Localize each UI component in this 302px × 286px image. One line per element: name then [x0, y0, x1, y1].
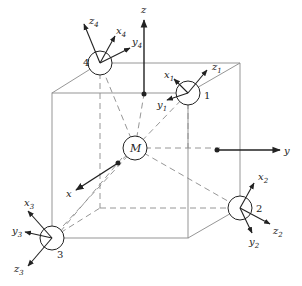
- svg-text:y3: y3: [11, 225, 23, 239]
- center-label: M: [129, 142, 142, 155]
- node-3: 3 x3 y3 z3: [11, 197, 64, 277]
- node-3-label: 3: [57, 249, 63, 260]
- svg-text:x3: x3: [24, 197, 35, 211]
- node-1-label: 1: [204, 90, 210, 101]
- y-axis-label: y: [283, 145, 290, 156]
- node-2: 2 x2 z2 y2: [228, 171, 283, 250]
- svg-text:z3: z3: [13, 263, 24, 277]
- svg-text:x2: x2: [258, 171, 269, 185]
- z-axis-label: z: [140, 4, 147, 15]
- global-y-axis: y: [215, 145, 291, 156]
- svg-text:x1: x1: [164, 69, 174, 83]
- svg-text:z4: z4: [88, 15, 99, 29]
- global-z-axis: z: [140, 4, 147, 97]
- center-mass-node: M: [123, 136, 147, 160]
- svg-text:y1: y1: [156, 99, 167, 113]
- svg-text:z2: z2: [272, 225, 283, 239]
- svg-text:x4: x4: [116, 25, 126, 39]
- node-4: 4 z4 x4 y4: [83, 15, 142, 75]
- cube-diagram: z y x M 4 z4 x4 y4 1 x1 z1 y1: [0, 0, 302, 286]
- node-1: 1 x1 z1 y1: [156, 61, 222, 113]
- node-2-label: 2: [256, 203, 262, 214]
- svg-text:y4: y4: [131, 36, 142, 50]
- x-axis-label: x: [66, 188, 72, 199]
- node-4-label: 4: [83, 57, 89, 68]
- svg-text:y2: y2: [248, 236, 260, 250]
